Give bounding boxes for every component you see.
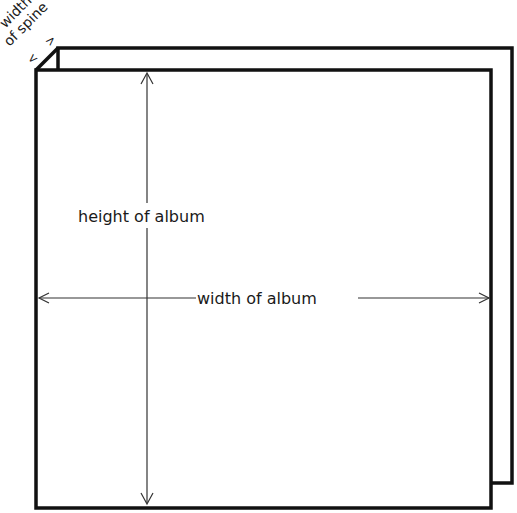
album-dimension-diagram: height of album width of album width of …	[0, 0, 517, 513]
spine-arrow-left: <	[24, 50, 41, 67]
spine-label: width of spine	[0, 0, 51, 49]
height-label: height of album	[78, 207, 205, 226]
width-label: width of album	[197, 289, 317, 308]
